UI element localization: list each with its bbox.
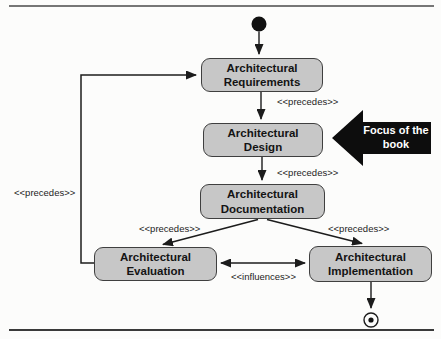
edge-label-precedes-documentation-implementation: <<precedes>> <box>328 223 389 234</box>
edge-evaluation-to-requirements <box>81 75 196 263</box>
node-architectural-design: Architectural Design <box>203 123 323 157</box>
edge-label-precedes-documentation-evaluation: <<precedes>> <box>139 223 200 234</box>
node-architectural-implementation: Architectural Implementation <box>309 246 432 282</box>
diagram-connectors <box>0 0 441 339</box>
edge-label-influences: <<influences>> <box>231 271 296 282</box>
final-node-dot <box>368 317 373 322</box>
node-architectural-requirements: Architectural Requirements <box>201 58 323 92</box>
focus-arrow-label: Focus of the book <box>361 122 431 154</box>
node-architectural-evaluation: Architectural Evaluation <box>94 247 217 281</box>
activity-diagram-page: Architectural Requirements Architectural… <box>0 0 441 339</box>
edge-label-precedes-requirements-design: <<precedes>> <box>277 96 338 107</box>
node-architectural-documentation: Architectural Documentation <box>200 184 325 219</box>
initial-node <box>252 17 267 32</box>
edge-label-precedes-evaluation-requirements: <<precedes>> <box>14 187 75 198</box>
edge-label-precedes-design-documentation: <<precedes>> <box>277 167 338 178</box>
